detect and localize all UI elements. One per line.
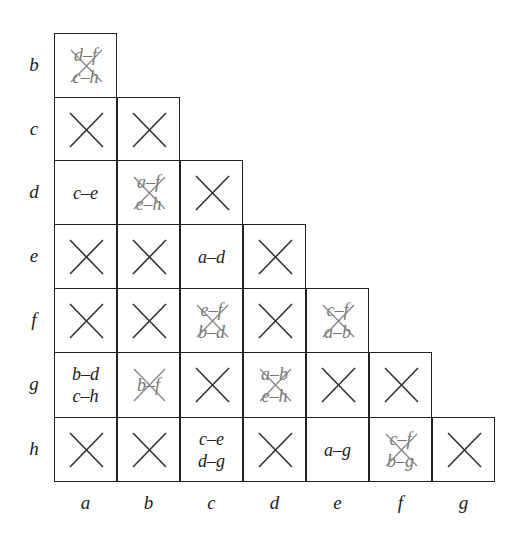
cell-g-d: a–be–h <box>243 352 306 418</box>
col-label-f: f <box>369 492 432 514</box>
row-label-b: b <box>22 55 46 75</box>
row-label-e: e <box>22 246 46 266</box>
cell-h-a <box>54 417 117 482</box>
col-label-e: e <box>306 492 369 514</box>
cell-f-b <box>117 288 180 353</box>
cell-d-a: c–e <box>54 160 117 225</box>
cell-c-a <box>54 97 117 161</box>
pair: d–g <box>198 450 225 472</box>
strike-x-icon <box>244 353 307 417</box>
x-mark-icon <box>370 353 433 417</box>
x-mark-icon <box>55 98 118 162</box>
row-label-g: g <box>22 374 46 394</box>
col-label-g: g <box>432 492 495 514</box>
cell-e-b <box>117 224 180 289</box>
x-mark-icon <box>244 289 307 353</box>
strike-x-icon <box>55 34 118 98</box>
strike-x-icon <box>307 289 370 353</box>
x-mark-icon <box>118 418 181 482</box>
cell-d-b: a–fe–h <box>117 160 180 225</box>
x-mark-icon <box>55 225 118 289</box>
x-mark-icon <box>118 289 181 353</box>
cell-h-c: c–ed–g <box>180 417 243 482</box>
cell-f-d <box>243 288 306 353</box>
cell-g-e <box>306 352 369 418</box>
x-mark-icon <box>118 225 181 289</box>
pair-list: b–dc–h <box>55 353 116 417</box>
x-mark-icon <box>181 161 244 225</box>
cell-d-c <box>180 160 243 225</box>
col-label-d: d <box>243 492 306 514</box>
row-label-f: f <box>22 310 46 330</box>
x-mark-icon <box>307 353 370 417</box>
pair-list: c–e <box>55 161 116 224</box>
row-label-d: d <box>22 182 46 202</box>
cell-f-a <box>54 288 117 353</box>
cell-g-b: b–f <box>117 352 180 418</box>
pair: a–g <box>324 439 351 461</box>
pair: c–e <box>73 182 98 204</box>
pair-list: a–d <box>181 225 242 288</box>
cell-h-e: a–g <box>306 417 369 482</box>
cell-e-d <box>243 224 306 289</box>
strike-x-icon <box>370 418 433 482</box>
cell-h-d <box>243 417 306 482</box>
x-mark-icon <box>244 225 307 289</box>
x-mark-icon <box>55 289 118 353</box>
x-mark-icon <box>433 418 496 482</box>
cell-c-b <box>117 97 180 161</box>
cell-b-a: d–fc–h <box>54 33 117 98</box>
col-label-c: c <box>180 492 243 514</box>
x-mark-icon <box>244 418 307 482</box>
pair-list: a–g <box>307 418 368 481</box>
cell-f-e: c–fa–b <box>306 288 369 353</box>
cell-g-c <box>180 352 243 418</box>
cell-g-f <box>369 352 432 418</box>
cell-e-a <box>54 224 117 289</box>
cell-f-c: e–fb–d <box>180 288 243 353</box>
col-label-a: a <box>54 492 117 514</box>
x-mark-icon <box>181 353 244 417</box>
cell-h-f: c–fb–g <box>369 417 432 482</box>
pair: c–e <box>199 428 224 450</box>
cell-e-c: a–d <box>180 224 243 289</box>
pair: c–h <box>73 385 99 407</box>
strike-x-icon <box>118 353 181 417</box>
x-mark-icon <box>118 98 181 162</box>
pair: a–d <box>198 246 225 268</box>
cell-g-a: b–dc–h <box>54 352 117 418</box>
cell-h-b <box>117 417 180 482</box>
pair-list: c–ed–g <box>181 418 242 481</box>
row-label-c: c <box>22 119 46 139</box>
x-mark-icon <box>55 418 118 482</box>
strike-x-icon <box>118 161 181 225</box>
col-label-b: b <box>117 492 180 514</box>
strike-x-icon <box>181 289 244 353</box>
pair: b–d <box>72 363 99 385</box>
cell-h-g <box>432 417 495 482</box>
row-label-h: h <box>22 439 46 459</box>
